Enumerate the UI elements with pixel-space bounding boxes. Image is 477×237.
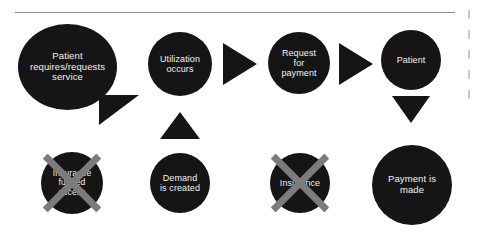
node-label: Utilization occurs [156, 54, 204, 74]
node-label: Payment is made [384, 174, 440, 195]
node-label: Patient requires/requests service [26, 51, 109, 83]
diagram-canvas: Patient requires/requests service Utiliz… [0, 0, 477, 237]
node-label: Insurance [276, 178, 324, 188]
node-label: Demand is created [156, 173, 204, 193]
connector-demand-to-utilization-icon [160, 112, 200, 139]
node-insurance[interactable]: Insurance [270, 153, 330, 213]
node-patient[interactable]: Patient [381, 30, 441, 90]
edge-text-fragment [468, 30, 470, 39]
connector-request-to-patient-icon [339, 43, 373, 85]
node-insurance-funded-access[interactable]: Insurance funded access [41, 152, 103, 214]
node-label: Patient [393, 55, 430, 65]
node-label: Insurance funded access [49, 169, 96, 198]
node-demand-is-created[interactable]: Demand is created [150, 153, 210, 213]
node-request-for-payment[interactable]: Request for payment [268, 32, 330, 94]
edge-text-fragment [468, 50, 470, 59]
node-utilization-occurs[interactable]: Utilization occurs [148, 32, 212, 96]
edge-text-fragment [468, 90, 470, 99]
edge-text-fragment [468, 70, 470, 79]
connector-utilization-to-request-icon [223, 43, 257, 85]
connector-patient-to-payment-icon [392, 96, 430, 123]
top-divider-rule [15, 12, 455, 13]
connector-patient-to-insurance-access-icon [99, 95, 139, 125]
node-payment-is-made[interactable]: Payment is made [372, 145, 452, 225]
edge-text-fragment [468, 10, 470, 19]
node-label: Request for payment [277, 48, 320, 78]
